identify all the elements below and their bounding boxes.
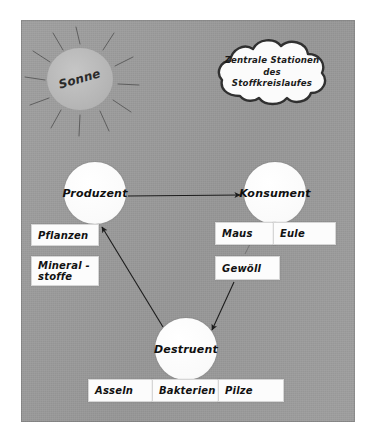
- title-cloud: Zentrale Stationen des Stoffkreislaufes: [216, 36, 328, 108]
- card-bakterien-label: Bakterien: [159, 385, 216, 396]
- sun-icon: Sonne: [47, 48, 113, 110]
- node-konsument-label: Konsument: [239, 187, 311, 200]
- node-destruent-label: Destruent: [154, 343, 218, 356]
- card-eule[interactable]: Eule: [273, 222, 336, 245]
- sun-label: Sonne: [57, 66, 102, 91]
- card-pflanzen-label: Pflanzen: [38, 230, 88, 241]
- card-asseln[interactable]: Asseln: [88, 379, 153, 402]
- card-pilze[interactable]: Pilze: [218, 379, 284, 402]
- card-gewoell-label: Gewöll: [222, 263, 261, 274]
- node-produzent[interactable]: Produzent: [64, 162, 126, 224]
- card-maus[interactable]: Maus: [215, 222, 276, 245]
- node-konsument[interactable]: Konsument: [244, 162, 306, 224]
- poster-photo: Sonne Zentrale Stationen des Stoffkreisl…: [0, 0, 378, 445]
- card-mineralstoffe-label: Mineral - stoffe: [38, 260, 90, 282]
- card-gewoell[interactable]: Gewöll: [215, 256, 280, 280]
- card-maus-label: Maus: [222, 228, 253, 239]
- cloud-title-text: Zentrale Stationen des Stoffkreislaufes: [224, 55, 320, 90]
- card-eule-label: Eule: [280, 228, 305, 239]
- node-produzent-label: Produzent: [62, 187, 127, 200]
- card-pflanzen[interactable]: Pflanzen: [31, 224, 99, 246]
- card-mineralstoffe[interactable]: Mineral - stoffe: [31, 256, 99, 286]
- card-pilze-label: Pilze: [225, 385, 253, 396]
- node-destruent[interactable]: Destruent: [155, 318, 217, 380]
- card-asseln-label: Asseln: [95, 385, 133, 396]
- card-bakterien[interactable]: Bakterien: [152, 379, 220, 402]
